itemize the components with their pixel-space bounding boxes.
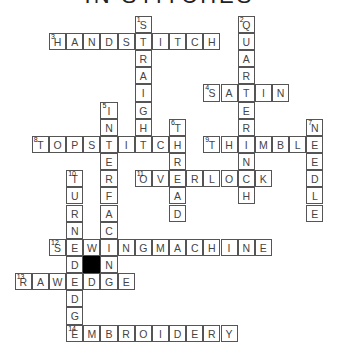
grid-cell[interactable]: U: [66, 187, 83, 204]
grid-cell[interactable]: N: [66, 222, 83, 239]
grid-cell[interactable]: I5: [100, 102, 117, 119]
grid-cell[interactable]: W: [49, 273, 66, 290]
grid-cell[interactable]: N: [238, 153, 255, 170]
grid-cell[interactable]: T6: [169, 119, 186, 136]
grid-cell[interactable]: R: [66, 205, 83, 222]
grid-cell[interactable]: T8: [32, 136, 49, 153]
grid-cell[interactable]: L: [306, 187, 323, 204]
grid-cell[interactable]: T: [238, 84, 255, 101]
grid-cell[interactable]: T: [135, 136, 152, 153]
grid-cell[interactable]: D: [66, 290, 83, 307]
grid-cell[interactable]: I: [255, 84, 272, 101]
grid-cell[interactable]: T10: [66, 170, 83, 187]
grid-cell[interactable]: T: [100, 136, 117, 153]
grid-cell[interactable]: A: [169, 187, 186, 204]
grid-cell[interactable]: M: [255, 136, 272, 153]
grid-cell[interactable]: I: [152, 33, 169, 50]
grid-cell[interactable]: D: [100, 33, 117, 50]
grid-cell[interactable]: H: [203, 33, 220, 50]
grid-cell[interactable]: N: [100, 256, 117, 273]
grid-cell[interactable]: W: [83, 239, 100, 256]
grid-cell[interactable]: R: [238, 67, 255, 84]
grid-cell[interactable]: C: [100, 222, 117, 239]
grid-cell[interactable]: G: [100, 273, 117, 290]
grid-cell[interactable]: O: [135, 325, 152, 342]
grid-cell[interactable]: O: [221, 170, 238, 187]
grid-cell[interactable]: E: [100, 153, 117, 170]
grid-cell[interactable]: G: [66, 307, 83, 324]
grid-cell[interactable]: H: [169, 136, 186, 153]
grid-cell[interactable]: S1: [135, 16, 152, 33]
grid-cell[interactable]: E: [306, 153, 323, 170]
grid-cell[interactable]: N: [118, 239, 135, 256]
grid-cell[interactable]: F: [100, 187, 117, 204]
grid-cell[interactable]: S12: [49, 239, 66, 256]
grid-cell[interactable]: R: [135, 50, 152, 67]
grid-cell[interactable]: T9: [203, 136, 220, 153]
grid-cell[interactable]: H3: [49, 33, 66, 50]
grid-cell[interactable]: G: [135, 102, 152, 119]
grid-cell[interactable]: R: [203, 325, 220, 342]
grid-cell[interactable]: O: [49, 136, 66, 153]
grid-cell[interactable]: E: [255, 239, 272, 256]
grid-cell[interactable]: E: [169, 170, 186, 187]
grid-cell[interactable]: E: [186, 325, 203, 342]
grid-cell[interactable]: I: [135, 84, 152, 101]
grid-cell[interactable]: L: [203, 170, 220, 187]
grid-cell[interactable]: E: [238, 102, 255, 119]
grid-cell[interactable]: S: [118, 33, 135, 50]
grid-cell[interactable]: R: [169, 153, 186, 170]
grid-cell[interactable]: E: [66, 273, 83, 290]
grid-cell[interactable]: U: [238, 33, 255, 50]
grid-cell[interactable]: N: [272, 84, 289, 101]
grid-cell[interactable]: P: [66, 136, 83, 153]
grid-cell[interactable]: C: [238, 170, 255, 187]
grid-cell[interactable]: Y: [221, 325, 238, 342]
grid-cell[interactable]: H: [203, 239, 220, 256]
grid-cell[interactable]: C: [186, 33, 203, 50]
grid-cell[interactable]: E: [66, 239, 83, 256]
grid-cell[interactable]: C: [186, 239, 203, 256]
grid-cell[interactable]: M: [83, 325, 100, 342]
grid-cell[interactable]: T: [169, 33, 186, 50]
grid-cell[interactable]: R: [186, 170, 203, 187]
grid-cell[interactable]: S: [83, 136, 100, 153]
grid-cell[interactable]: S4: [203, 84, 220, 101]
grid-cell[interactable]: A: [238, 50, 255, 67]
grid-cell[interactable]: R: [118, 325, 135, 342]
grid-cell[interactable]: D: [306, 170, 323, 187]
grid-cell[interactable]: I: [152, 325, 169, 342]
grid-cell[interactable]: A: [169, 239, 186, 256]
grid-cell[interactable]: D: [83, 273, 100, 290]
grid-cell[interactable]: D: [66, 256, 83, 273]
grid-cell[interactable]: D: [169, 325, 186, 342]
grid-cell[interactable]: B: [272, 136, 289, 153]
grid-cell[interactable]: I: [118, 136, 135, 153]
grid-cell[interactable]: T: [135, 33, 152, 50]
grid-cell[interactable]: I: [100, 239, 117, 256]
grid-cell[interactable]: G: [135, 239, 152, 256]
grid-cell[interactable]: C: [152, 136, 169, 153]
grid-cell[interactable]: L: [289, 136, 306, 153]
grid-cell[interactable]: R: [238, 119, 255, 136]
grid-cell[interactable]: Q2: [238, 16, 255, 33]
grid-cell[interactable]: E: [118, 273, 135, 290]
grid-cell[interactable]: N: [238, 239, 255, 256]
grid-cell[interactable]: E14: [66, 325, 83, 342]
grid-cell[interactable]: B: [100, 325, 117, 342]
grid-cell[interactable]: N: [83, 33, 100, 50]
grid-cell[interactable]: I: [238, 136, 255, 153]
grid-cell[interactable]: V: [152, 170, 169, 187]
grid-cell[interactable]: E: [306, 136, 323, 153]
grid-cell[interactable]: A: [100, 205, 117, 222]
grid-cell[interactable]: H: [221, 136, 238, 153]
grid-cell[interactable]: D: [169, 205, 186, 222]
grid-cell[interactable]: E: [306, 205, 323, 222]
grid-cell[interactable]: A: [135, 67, 152, 84]
grid-cell[interactable]: A: [66, 33, 83, 50]
grid-cell[interactable]: A: [32, 273, 49, 290]
grid-cell[interactable]: N7: [306, 119, 323, 136]
grid-cell[interactable]: R: [100, 170, 117, 187]
grid-cell[interactable]: M: [152, 239, 169, 256]
grid-cell[interactable]: N: [100, 119, 117, 136]
